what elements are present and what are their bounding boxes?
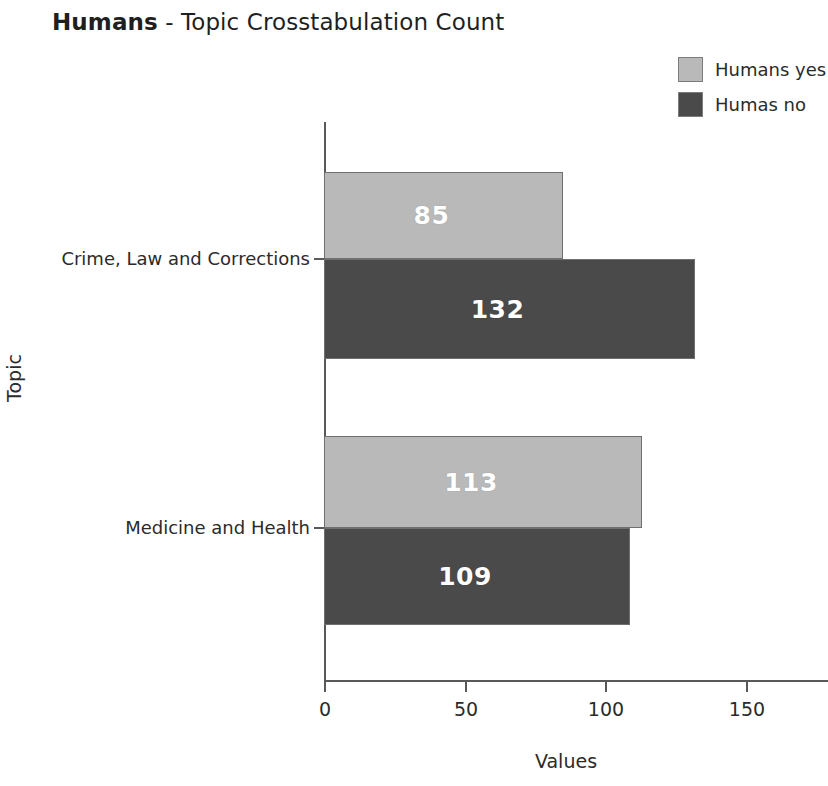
y-tick-medicine: [314, 527, 324, 529]
y-axis-title: Topic: [3, 328, 25, 428]
legend-label-humas-no: Humas no: [715, 94, 806, 115]
legend-item-humas-no[interactable]: Humas no: [678, 87, 826, 122]
legend-item-humans-yes[interactable]: Humans yes: [678, 52, 826, 87]
bar-value-crime-no: 132: [471, 295, 525, 324]
bar-value-crime-yes: 85: [414, 201, 450, 230]
x-axis-spine: [324, 680, 828, 682]
bar-medicine-and-health-humans-yes[interactable]: 113: [324, 436, 642, 528]
x-tick-label-100: 100: [588, 698, 624, 720]
x-tick-100: [605, 681, 607, 692]
page-title-strong: Humans: [52, 9, 158, 35]
x-tick-0: [324, 681, 326, 692]
page-title: Humans - Topic Crosstabulation Count: [52, 7, 504, 37]
y-category-label-medicine-and-health: Medicine and Health: [125, 517, 310, 538]
legend-swatch-humas-no: [678, 92, 703, 117]
y-category-label-crime-law-and-corrections: Crime, Law and Corrections: [61, 248, 310, 269]
x-tick-50: [465, 681, 467, 692]
x-tick-label-0: 0: [319, 698, 331, 720]
legend-swatch-humans-yes: [678, 57, 703, 82]
y-tick-crime: [314, 258, 324, 260]
legend-label-humans-yes: Humans yes: [715, 59, 826, 80]
chart-page: { "title": { "strong": "Humans", "rest":…: [0, 0, 828, 786]
x-tick-150: [746, 681, 748, 692]
bar-crime-law-and-corrections-humas-no[interactable]: 132: [324, 259, 695, 359]
x-axis-title: Values: [0, 750, 828, 772]
x-axis-title-text: Values: [535, 750, 597, 772]
bar-value-medicine-yes: 113: [444, 468, 498, 497]
chart-legend: Humans yes Humas no: [678, 52, 826, 122]
plot-area: 85 132 113 109: [324, 122, 828, 680]
x-tick-label-50: 50: [454, 698, 478, 720]
bar-crime-law-and-corrections-humans-yes[interactable]: 85: [324, 172, 563, 259]
bar-value-medicine-no: 109: [438, 562, 492, 591]
page-title-rest: - Topic Crosstabulation Count: [158, 9, 505, 35]
x-tick-label-150: 150: [729, 698, 765, 720]
bar-medicine-and-health-humas-no[interactable]: 109: [324, 528, 630, 625]
